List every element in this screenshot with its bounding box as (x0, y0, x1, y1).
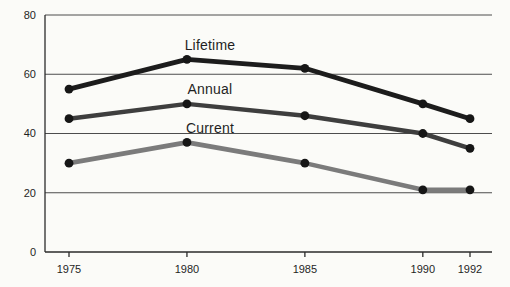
series-label-lifetime: Lifetime (185, 37, 236, 53)
line-chart: 02040608019751980198519901992LifetimeAnn… (0, 0, 510, 287)
x-tick-label-1990: 1990 (411, 263, 435, 275)
data-point-annual-1990 (418, 129, 427, 138)
y-tick-label-0: 0 (30, 246, 36, 258)
data-point-lifetime-1990 (418, 99, 427, 108)
data-point-current-1992 (466, 185, 475, 194)
data-point-current-1980 (183, 138, 192, 147)
data-point-lifetime-1975 (65, 85, 74, 94)
data-point-current-1990 (418, 185, 427, 194)
y-tick-label-20: 20 (24, 187, 36, 199)
x-tick-label-1975: 1975 (57, 263, 81, 275)
data-point-lifetime-1985 (300, 64, 309, 73)
data-point-lifetime-1980 (183, 55, 192, 64)
x-tick-label-1980: 1980 (175, 263, 199, 275)
data-point-annual-1975 (65, 114, 74, 123)
y-tick-label-60: 60 (24, 68, 36, 80)
series-label-current: Current (186, 120, 234, 136)
prevalence-line-chart-figure: 02040608019751980198519901992LifetimeAnn… (0, 0, 510, 287)
data-point-current-1985 (300, 159, 309, 168)
series-line-annual (69, 104, 470, 148)
x-tick-label-1985: 1985 (293, 263, 317, 275)
data-point-lifetime-1992 (466, 114, 475, 123)
y-tick-label-80: 80 (24, 9, 36, 21)
data-point-annual-1980 (183, 99, 192, 108)
series-label-annual: Annual (188, 81, 233, 97)
data-point-annual-1985 (300, 111, 309, 120)
data-point-annual-1992 (466, 144, 475, 153)
data-point-current-1975 (65, 159, 74, 168)
y-tick-label-40: 40 (24, 127, 36, 139)
series-line-current (69, 142, 470, 189)
x-tick-label-1992: 1992 (458, 263, 482, 275)
